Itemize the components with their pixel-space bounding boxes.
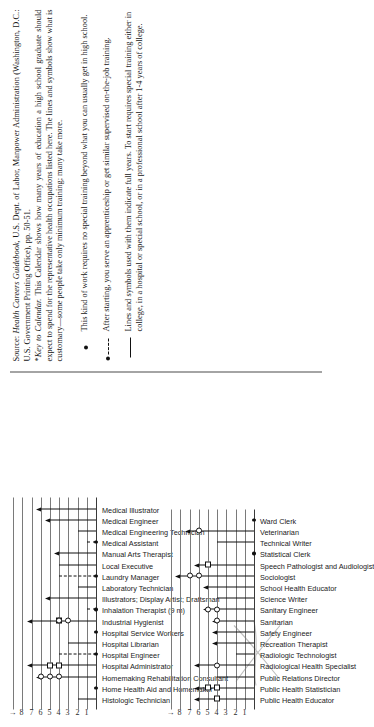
circle-marker-chart-right-7-y4: [214, 617, 220, 623]
legend-item-0: This kind of work requires no special tr…: [80, 9, 94, 361]
bar-chart-right-5: [217, 642, 254, 643]
axis-tick-2: 2: [230, 708, 240, 717]
occupation-label: Hospital Administrator: [102, 662, 173, 669]
key-footnote: *Key to Calendar. This Calendar shows ho…: [34, 9, 66, 361]
arrow-head-chart-right-12: [194, 563, 199, 567]
gridline-year-6: [199, 509, 200, 709]
arrow-head-chart-left-9: [45, 596, 50, 600]
bar-chart-right-4: [236, 653, 254, 654]
occupation-label: Laboratory Technician: [102, 584, 173, 591]
bar-chart-right-10: [208, 586, 254, 587]
bar-chart-right-0: [199, 698, 254, 699]
occupation-label: Recreation Therapist: [260, 640, 328, 647]
occupation-label: Public Relations Director: [260, 674, 340, 681]
square-marker-chart-right-1-y5: [205, 684, 211, 690]
bar-chart-right-14: [217, 541, 254, 542]
occupation-label: Radiologic Technologist: [260, 651, 337, 658]
arrow-head-chart-left-17: [36, 507, 41, 511]
legend-text-2: Lines and symbols used with them indicat…: [124, 9, 145, 331]
dot-marker-chart-left-8: [94, 607, 98, 611]
footnote-title: Key to Calendar.: [34, 298, 43, 357]
axis-tick-4: 4: [212, 708, 222, 717]
square-marker-chart-left-3-y5: [47, 662, 53, 668]
occupation-label: Laundry Manager: [102, 573, 159, 580]
legend-item-1: After starting, you serve an apprentices…: [102, 9, 116, 361]
bar-chart-right-3: [199, 664, 254, 665]
gridline-arrow: [171, 509, 172, 709]
occupation-label: Medical Engineer: [102, 517, 158, 524]
bar-chart-left-16: [50, 519, 96, 520]
axis-tick-8: 8: [17, 708, 27, 717]
occupation-label: Sanitary Engineer: [260, 606, 318, 613]
arrow-head-chart-left-3: [27, 663, 32, 667]
axis-tick-3: 3: [221, 708, 231, 717]
bar-chart-left-5: [68, 642, 96, 643]
occupation-label: Manual Arts Therapist: [102, 550, 173, 557]
axis-baseline: [254, 509, 255, 709]
square-marker-chart-left-3-y4: [56, 662, 62, 668]
arrow-head-chart-right-3: [194, 663, 199, 667]
legend-text-0: This kind of work requires no special tr…: [80, 9, 91, 331]
gridline-arrow: [13, 497, 14, 709]
square-marker-chart-right-1-y4: [214, 684, 220, 690]
bar-chart-right-7: [217, 620, 254, 621]
axis-tick-6: 6: [35, 708, 45, 717]
arrow-head-chart-right-1: [194, 686, 199, 690]
occupation-label: Ward Clerk: [260, 517, 296, 524]
circle-marker-chart-right-15-y6: [196, 528, 202, 534]
arrow-head-chart-right-0: [194, 697, 199, 701]
arrow-head-chart-left-16: [45, 518, 50, 522]
axis-tick-1: 1: [239, 708, 249, 717]
legend-key-dot-dashed-line: [103, 335, 114, 363]
axis-tick-5: 5: [203, 708, 213, 717]
bar-chart-left-13: [59, 552, 96, 553]
axis-tick-5: 5: [45, 708, 55, 717]
dot-marker-chart-left-1: [94, 686, 98, 690]
occupation-label: Public Health Educator: [260, 696, 334, 703]
chart-column-left: 12345678→Histologic TechnicianHome Healt…: [14, 409, 164, 709]
occupation-label: Public Health Statistician: [260, 685, 340, 692]
bar-chart-left-10: [78, 586, 96, 587]
circle-marker-chart-left-7-y3: [65, 617, 71, 623]
bar-chart-right-2: [217, 676, 254, 677]
occupation-label: Medical Assistant: [102, 539, 158, 546]
axis-tick-7: 7: [26, 708, 36, 717]
bar-chart-left-15: [78, 530, 96, 531]
square-marker-chart-right-0-y4: [214, 696, 220, 702]
circle-marker-chart-left-2-y6: [38, 673, 44, 679]
chart-column-right: 12345678→Public Health EducatorPublic He…: [172, 409, 320, 709]
axis-tick-7: 7: [184, 708, 194, 717]
occupation-label: Science Writer: [260, 595, 307, 602]
occupation-label: Hospital Engineer: [102, 651, 160, 658]
occupation-label: Sociologist: [260, 573, 295, 580]
bar-chart-left-11: [59, 575, 96, 576]
dot-marker-chart-right-16: [252, 518, 256, 522]
gridline-year-8: [22, 497, 23, 709]
bar-chart-left-9: [50, 597, 96, 598]
circle-marker-chart-right-8-y4: [214, 606, 220, 612]
bar-chart-right-9: [217, 597, 254, 598]
occupation-label: Hospital Librarian: [102, 640, 159, 647]
arrow-head-chart-right-10: [203, 585, 208, 589]
arrow-head-chart-right-5: [212, 641, 217, 645]
gridline-year-7: [32, 497, 33, 709]
occupation-label: Sanitarian: [260, 618, 293, 625]
arrow-head-chart-right-15: [185, 529, 190, 533]
axis-tick-2: 2: [72, 708, 82, 717]
dot-marker-chart-left-14: [94, 540, 98, 544]
axis-arrow: →: [166, 708, 176, 717]
bar-chart-left-0: [78, 698, 96, 699]
occupation-label: Radiological Health Specialist: [260, 662, 356, 669]
circle-marker-chart-right-11-y6: [196, 572, 202, 578]
gridline-year-7: [190, 509, 191, 709]
occupation-label: Safety Engineer: [260, 629, 312, 636]
gridline-year-1: [87, 497, 88, 709]
gridline-year-3: [68, 497, 69, 709]
arrow-head-chart-right-11: [175, 574, 180, 578]
axis-tick-6: 6: [193, 708, 203, 717]
dot-marker-chart-left-11: [94, 574, 98, 578]
source-title: Health Careers Guidebook,: [12, 240, 21, 333]
arrow-head-chart-left-7: [27, 619, 32, 623]
dot-marker-chart-right-13: [252, 551, 256, 555]
